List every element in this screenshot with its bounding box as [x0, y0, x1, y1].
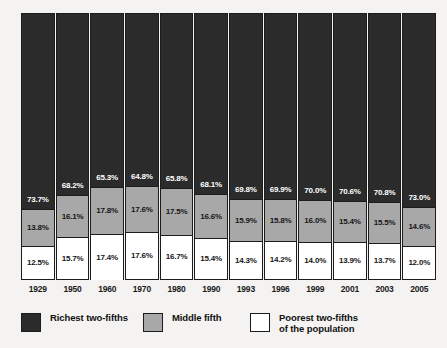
bar-2005: 73.0%14.6%12.0%: [402, 13, 436, 280]
x-tick-1999: 1999: [298, 282, 332, 296]
bar-segment-1980-s0: 65.8%: [161, 14, 193, 188]
segment-value-label: 16.6%: [200, 213, 222, 221]
bar-segment-2001-s0: 70.6%: [334, 14, 366, 201]
segment-value-label: 12.5%: [27, 259, 49, 267]
bar-1960: 65.3%17.8%17.4%: [90, 13, 124, 280]
bar-segment-1960-s1: 17.8%: [91, 187, 123, 234]
segment-value-label: 12.0%: [408, 259, 430, 267]
segment-value-label: 17.5%: [166, 208, 188, 216]
x-tick-1929: 1929: [21, 282, 55, 296]
bar-segment-2005-s2: 12.0%: [403, 246, 435, 278]
bar-segment-2003-s2: 13.7%: [369, 243, 401, 279]
bar-segment-1960-s2: 17.4%: [91, 234, 123, 280]
bar-segment-1929-s2: 12.5%: [22, 246, 54, 279]
segment-value-label: 73.7%: [22, 196, 54, 204]
legend-label-middle: Middle fifth: [172, 312, 221, 323]
segment-value-label: 15.4%: [339, 218, 361, 226]
legend-label-richest: Richest two-fifths: [50, 312, 128, 323]
bar-segment-1993-s2: 14.3%: [230, 241, 262, 279]
bar-segment-2005-s1: 14.6%: [403, 207, 435, 246]
segment-value-label: 68.1%: [195, 181, 227, 189]
bar-segment-1999-s1: 16.0%: [299, 200, 331, 242]
bar-segment-1999-s2: 14.0%: [299, 242, 331, 279]
segment-value-label: 13.9%: [339, 257, 361, 265]
bar-segment-2001-s1: 15.4%: [334, 201, 366, 242]
bar-segment-2003-s1: 15.5%: [369, 202, 401, 243]
segment-value-label: 69.9%: [265, 186, 297, 194]
segment-value-label: 65.3%: [91, 174, 123, 182]
x-tick-1950: 1950: [56, 282, 90, 296]
bar-segment-1999-s0: 70.0%: [299, 14, 331, 200]
segment-value-label: 73.0%: [403, 194, 435, 202]
x-tick-1980: 1980: [160, 282, 194, 296]
x-tick-1970: 1970: [125, 282, 159, 296]
segment-value-label: 15.9%: [235, 217, 257, 225]
bar-segment-1929-s0: 73.7%: [22, 14, 54, 209]
bar-1929: 73.7%13.8%12.5%: [21, 13, 55, 280]
bar-1999: 70.0%16.0%14.0%: [298, 13, 332, 280]
bar-segment-1996-s1: 15.8%: [265, 199, 297, 241]
segment-value-label: 13.8%: [27, 224, 49, 232]
segment-value-label: 17.8%: [96, 207, 118, 215]
x-tick-2003: 2003: [368, 282, 402, 296]
legend-item-richest: Richest two-fifths: [21, 312, 128, 332]
segment-value-label: 70.6%: [334, 188, 366, 196]
bar-segment-1950-s2: 15.7%: [57, 237, 89, 279]
segment-value-label: 70.0%: [299, 187, 331, 195]
bar-segment-1970-s2: 17.6%: [126, 232, 158, 279]
segment-value-label: 13.7%: [374, 257, 396, 265]
x-tick-1993: 1993: [229, 282, 263, 296]
segment-value-label: 14.3%: [235, 257, 257, 265]
bar-1970: 64.8%17.6%17.6%: [125, 13, 159, 280]
segment-value-label: 14.6%: [408, 223, 430, 231]
bar-1996: 69.9%15.8%14.2%: [264, 13, 298, 280]
segment-value-label: 65.8%: [161, 175, 193, 183]
stacked-bar-chart: 73.7%13.8%12.5%68.2%16.1%15.7%65.3%17.8%…: [0, 0, 447, 348]
bar-2001: 70.6%15.4%13.9%: [333, 13, 367, 280]
legend-item-poorest: Poorest two-fifths of the population: [250, 312, 358, 334]
bar-segment-1970-s0: 64.8%: [126, 14, 158, 186]
x-tick-1996: 1996: [264, 282, 298, 296]
bar-1993: 69.8%15.9%14.3%: [229, 13, 263, 280]
x-axis-tick-labels: 1929195019601970198019901993199619992001…: [21, 282, 436, 296]
legend-swatch-middle-icon: [143, 313, 163, 332]
bar-segment-1980-s1: 17.5%: [161, 188, 193, 234]
bar-segment-1996-s2: 14.2%: [265, 241, 297, 279]
x-tick-2001: 2001: [333, 282, 367, 296]
legend-label-poorest: Poorest two-fifths of the population: [279, 312, 358, 334]
bar-segment-1960-s0: 65.3%: [91, 14, 123, 187]
segment-value-label: 15.8%: [270, 217, 292, 225]
segment-value-label: 15.4%: [200, 255, 222, 263]
bar-segment-2001-s2: 13.9%: [334, 242, 366, 279]
segment-value-label: 16.1%: [62, 213, 84, 221]
chart-legend: Richest two-fifths Middle fifth Poorest …: [21, 312, 436, 344]
bar-segment-1950-s0: 68.2%: [57, 14, 89, 195]
bar-1990: 68.1%16.6%15.4%: [194, 13, 228, 280]
bar-segment-1996-s0: 69.9%: [265, 14, 297, 199]
bar-segment-1929-s1: 13.8%: [22, 209, 54, 246]
segment-value-label: 15.7%: [62, 255, 84, 263]
bar-segment-1970-s1: 17.6%: [126, 186, 158, 233]
bar-segment-1993-s1: 15.9%: [230, 199, 262, 241]
bar-segment-1993-s0: 69.8%: [230, 14, 262, 199]
bar-segment-1950-s1: 16.1%: [57, 195, 89, 238]
x-tick-2005: 2005: [402, 282, 436, 296]
bar-segment-1980-s2: 16.7%: [161, 235, 193, 279]
segment-value-label: 70.8%: [369, 189, 401, 197]
segment-value-label: 16.0%: [304, 217, 326, 225]
x-tick-1990: 1990: [194, 282, 228, 296]
segment-value-label: 14.0%: [304, 257, 326, 265]
segment-value-label: 16.7%: [166, 253, 188, 261]
bar-segment-1990-s2: 15.4%: [195, 238, 227, 279]
legend-swatch-richest-icon: [21, 313, 41, 332]
bar-2003: 70.8%15.5%13.7%: [368, 13, 402, 280]
segment-value-label: 69.8%: [230, 186, 262, 194]
bar-segment-2003-s0: 70.8%: [369, 14, 401, 202]
segment-value-label: 14.2%: [270, 256, 292, 264]
x-tick-1960: 1960: [90, 282, 124, 296]
bar-1980: 65.8%17.5%16.7%: [160, 13, 194, 280]
bar-segment-1990-s1: 16.6%: [195, 194, 227, 238]
segment-value-label: 64.8%: [126, 173, 158, 181]
segment-value-label: 15.5%: [374, 219, 396, 227]
bar-segment-1990-s0: 68.1%: [195, 14, 227, 194]
